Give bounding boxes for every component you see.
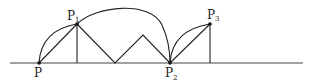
label-p1-subscript: 1	[75, 16, 79, 24]
label-p1: P	[67, 9, 75, 23]
point-p	[37, 61, 41, 65]
label-p2-subscript: 2	[173, 74, 177, 82]
label-p3: P	[207, 8, 215, 22]
label-p2: P	[165, 66, 173, 80]
point-p3	[208, 22, 212, 26]
label-p: P	[34, 66, 42, 80]
label-p3-subscript: 3	[215, 15, 219, 23]
point-p2	[168, 61, 172, 65]
diagram-canvas: P P 1 P 2 P 3	[0, 0, 310, 82]
zigzag-p1-to-p2	[77, 24, 170, 63]
